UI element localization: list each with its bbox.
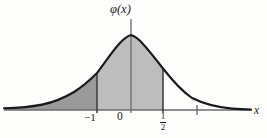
x-axis-label: x [254, 105, 259, 117]
plot-canvas [0, 0, 267, 138]
fraction-one-half: 1 2 [160, 112, 167, 133]
xtick-label-one-half: 1 2 [155, 112, 171, 133]
xtick-label-minus-one: −1 [84, 112, 96, 123]
fraction-denominator: 2 [160, 123, 167, 132]
y-axis-label: φ(x) [110, 3, 131, 16]
shade-central-light [97, 35, 163, 110]
xtick-label-zero: 0 [117, 111, 123, 123]
normal-distribution-figure: φ(x) x −1 0 1 2 [0, 0, 267, 138]
shade-left-tail-dark [4, 73, 97, 110]
fraction-numerator: 1 [160, 112, 167, 121]
